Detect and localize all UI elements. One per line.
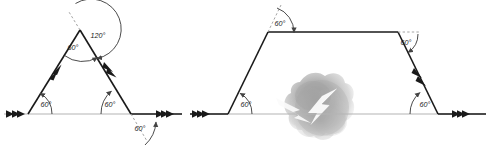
angle-label-trap-base-left: 60°	[241, 100, 252, 109]
angle-label-trap-base-right: 60°	[420, 100, 431, 109]
trapezoid-outgoing-ray-direction-marks	[452, 110, 470, 118]
geometry-figure: 60° 60° 120° 60° 60°	[0, 0, 488, 153]
triangle-diagram: 60° 60° 120° 60° 60°	[4, 0, 182, 145]
arc-tri-apex-exterior	[76, 0, 122, 59]
arc-tri-base-right-exterior	[145, 122, 156, 145]
angle-label-tri-apex-exterior: 120°	[91, 31, 106, 40]
angle-label-tri-apex-interior: 60°	[68, 43, 79, 52]
figure-canvas: 60° 60° 120° 60° 60°	[0, 0, 488, 153]
angle-label-trap-top-left: 60°	[275, 19, 286, 28]
arc-tri-apex-interior	[65, 56, 98, 62]
apex-dashed-extension	[69, 12, 80, 30]
angle-label-tri-base-left: 60°	[41, 100, 52, 109]
arc-trap-base-right	[410, 93, 420, 115]
cloud-lightning-watermark	[276, 73, 354, 140]
triangle-outgoing-ray-direction-marks	[156, 110, 174, 118]
angle-label-tri-base-right-interior: 60°	[105, 100, 116, 109]
angle-label-tri-base-right-exterior: 60°	[135, 124, 146, 133]
left-ray-direction-marks	[6, 110, 25, 118]
triangle-left-side-direction-marks	[49, 65, 62, 81]
trapezoid-right-side-direction-marks	[412, 68, 427, 86]
angle-label-trap-top-right: 60°	[401, 38, 412, 47]
